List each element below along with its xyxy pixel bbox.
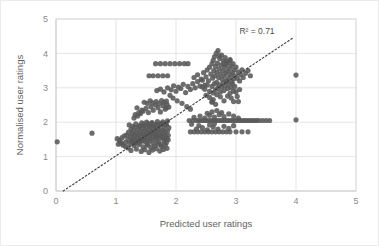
data-point	[146, 110, 151, 115]
chart-canvas: R² = 0.71 012345 012345 Predicted user r…	[1, 1, 379, 246]
data-point	[233, 129, 238, 134]
data-point	[212, 121, 217, 126]
data-point	[89, 131, 94, 136]
data-point	[221, 124, 226, 129]
data-point	[267, 118, 272, 123]
data-point	[164, 99, 169, 104]
data-point	[166, 137, 171, 142]
data-point	[153, 61, 158, 66]
x-tick-label-0: 0	[53, 196, 58, 206]
data-point	[167, 61, 172, 66]
data-point	[189, 122, 194, 127]
data-point	[191, 115, 196, 120]
data-point	[196, 123, 201, 128]
data-point	[175, 98, 180, 103]
x-tick-label-1: 1	[113, 196, 118, 206]
data-point	[214, 108, 219, 113]
y-tick-label-2: 2	[43, 117, 48, 127]
data-point	[155, 73, 160, 78]
data-point	[219, 110, 224, 115]
data-point	[248, 73, 253, 78]
data-point	[134, 146, 139, 151]
data-point	[207, 122, 212, 127]
data-point	[233, 65, 238, 70]
data-point	[226, 111, 231, 116]
data-point	[133, 112, 138, 117]
data-point	[231, 113, 236, 118]
data-point	[185, 61, 190, 66]
data-point	[151, 73, 156, 78]
y-axis-tick-labels: 012345	[43, 14, 48, 196]
data-point	[227, 58, 232, 63]
data-point	[134, 105, 139, 110]
data-point	[163, 61, 168, 66]
data-point	[221, 61, 226, 66]
x-tick-label-3: 3	[233, 196, 238, 206]
data-point	[239, 129, 244, 134]
data-point	[166, 133, 171, 138]
data-point	[171, 83, 176, 88]
data-point	[231, 123, 236, 128]
x-tick-label-2: 2	[173, 196, 178, 206]
data-point	[205, 82, 210, 87]
data-point	[160, 73, 165, 78]
r-squared-annotation: R² = 0.71	[239, 26, 274, 36]
y-tick-label-0: 0	[43, 186, 48, 196]
data-point	[236, 115, 241, 120]
y-tick-label-5: 5	[43, 14, 48, 24]
data-point	[231, 99, 236, 104]
data-point	[199, 77, 204, 82]
data-point	[193, 85, 198, 90]
data-point	[226, 126, 231, 131]
y-tick-label-4: 4	[43, 49, 48, 59]
y-tick-label-3: 3	[43, 83, 48, 93]
data-point	[218, 94, 223, 99]
data-point	[293, 117, 298, 122]
data-point	[236, 99, 241, 104]
data-point	[235, 94, 240, 99]
scatter-chart-figure: R² = 0.71 012345 012345 Predicted user r…	[0, 0, 379, 246]
data-point	[215, 126, 220, 131]
data-point	[217, 54, 222, 59]
r-squared-label: R² = 0.71	[239, 26, 274, 36]
data-point	[293, 72, 298, 77]
data-point	[177, 61, 182, 66]
data-point	[161, 89, 166, 94]
data-point	[221, 98, 226, 103]
data-point	[212, 114, 217, 119]
x-tick-label-4: 4	[293, 196, 298, 206]
data-point	[172, 61, 177, 66]
y-axis-title: Normalised user ratings	[14, 55, 25, 156]
data-point	[209, 109, 214, 114]
data-point	[179, 101, 184, 106]
y-tick-label-1: 1	[43, 152, 48, 162]
x-tick-label-5: 5	[353, 196, 358, 206]
data-point	[183, 90, 188, 95]
data-point	[158, 109, 163, 114]
data-point	[181, 82, 186, 87]
data-point	[237, 87, 242, 92]
data-point	[128, 148, 133, 153]
data-point	[195, 72, 200, 77]
x-axis-title: Predicted user ratings	[160, 218, 253, 229]
data-point	[202, 115, 207, 120]
data-point	[164, 146, 169, 151]
data-point	[165, 73, 170, 78]
data-point	[158, 61, 163, 66]
data-point	[205, 111, 210, 116]
data-point	[151, 108, 156, 113]
data-point	[232, 84, 237, 89]
data-point	[164, 105, 169, 110]
data-point	[55, 139, 60, 144]
x-axis-tick-labels: 012345	[53, 196, 358, 206]
data-point	[116, 142, 121, 147]
data-point	[215, 48, 220, 53]
data-point	[188, 107, 193, 112]
data-point	[188, 87, 193, 92]
data-point	[213, 102, 218, 107]
data-point	[197, 113, 202, 118]
data-point	[245, 129, 250, 134]
data-point	[205, 127, 210, 132]
